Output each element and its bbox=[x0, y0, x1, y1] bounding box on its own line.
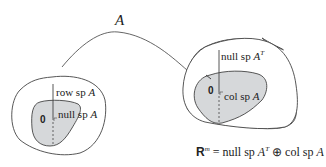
row-space-label: row sp A bbox=[56, 86, 95, 98]
column-space-label: col sp A bbox=[224, 90, 260, 102]
codomain-origin-label: 0 bbox=[208, 85, 214, 96]
map-arrow bbox=[62, 32, 206, 80]
left-null-space-label: null sp AT bbox=[221, 49, 265, 62]
domain-origin-label: 0 bbox=[40, 114, 46, 125]
decomposition-equation: Rm=null spAT⊕col spA bbox=[196, 145, 324, 159]
map-label: A bbox=[114, 12, 125, 28]
fundamental-subspaces-diagram: A row sp A null sp A 0 null sp AT col sp… bbox=[0, 0, 326, 167]
null-space-label: null sp A bbox=[58, 108, 97, 120]
